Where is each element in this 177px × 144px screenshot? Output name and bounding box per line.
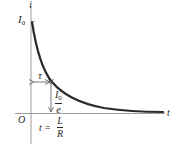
time-constant-lhs: t = [39,123,51,133]
decayed-current-label: I0 e [55,90,62,115]
y-axis-label: i [29,0,32,10]
origin-label: O [18,115,25,125]
x-axis-label: t [167,108,170,118]
decay-curve [32,22,163,112]
decay-diagram [0,0,177,144]
tau-label: τ [38,70,42,81]
time-constant-fraction: L R [57,116,63,139]
initial-current-label: I0 [18,14,25,27]
